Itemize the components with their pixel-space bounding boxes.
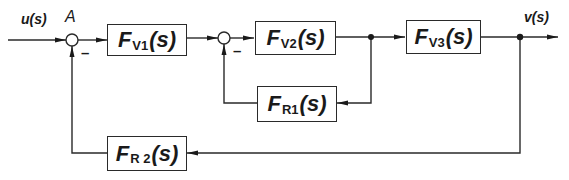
minus-sign-2: –	[233, 42, 241, 59]
block-fv3-arg: (s)	[446, 24, 473, 50]
block-fv3-letter: F	[414, 24, 427, 50]
input-signal-label: u(s)	[21, 11, 47, 27]
block-fr1-arg: (s)	[300, 91, 327, 117]
block-fv1: FV1(s)	[107, 24, 187, 56]
block-fv2-letter: F	[266, 25, 279, 51]
block-fv3-subscript: V3	[429, 35, 445, 50]
outer-feedback-return-line	[72, 46, 107, 153]
block-fr1-subscript: R1	[282, 102, 299, 117]
block-fr1-letter: F	[268, 91, 281, 117]
minus-sign-a: –	[81, 44, 89, 61]
block-fr2: FR 2(s)	[107, 136, 187, 171]
block-fr2-subscript: R 2	[130, 151, 150, 166]
branch-node-output	[517, 34, 523, 40]
summing-junction-2	[218, 32, 230, 44]
summing-junction-a	[66, 34, 78, 46]
block-fv1-letter: F	[118, 27, 131, 53]
junction-a-label: A	[65, 8, 76, 26]
block-fv1-arg: (s)	[149, 27, 176, 53]
block-fv2-arg: (s)	[298, 25, 325, 51]
block-fv1-subscript: V1	[132, 38, 148, 53]
block-fr1: FR1(s)	[257, 86, 337, 122]
output-signal-label: v(s)	[524, 9, 549, 25]
block-fr2-arg: (s)	[151, 141, 178, 167]
block-fv2: FV2(s)	[255, 21, 336, 55]
branch-node-inner	[368, 34, 374, 40]
block-fv2-subscript: V2	[281, 36, 297, 51]
block-fv3: FV3(s)	[406, 20, 481, 54]
inner-feedback-line	[337, 37, 371, 103]
block-fr2-letter: F	[116, 141, 129, 167]
